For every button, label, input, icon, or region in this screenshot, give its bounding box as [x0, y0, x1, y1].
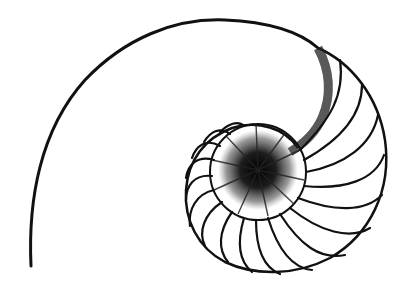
shell-upper-band: [290, 48, 328, 152]
nautilus-shell-drawing: [0, 0, 410, 292]
nautilus-illustration: [0, 0, 410, 292]
